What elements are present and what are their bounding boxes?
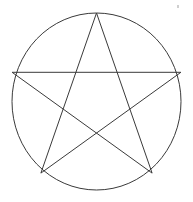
pentagram-star — [12, 13, 181, 173]
pentagram-canvas: Pentagram inscribed in a circle — [0, 0, 193, 202]
circumscribed-circle — [12, 13, 181, 190]
pentagram-figure: Pentagram inscribed in a circle — [0, 0, 193, 202]
scan-speck-artifact — [177, 5, 179, 8]
